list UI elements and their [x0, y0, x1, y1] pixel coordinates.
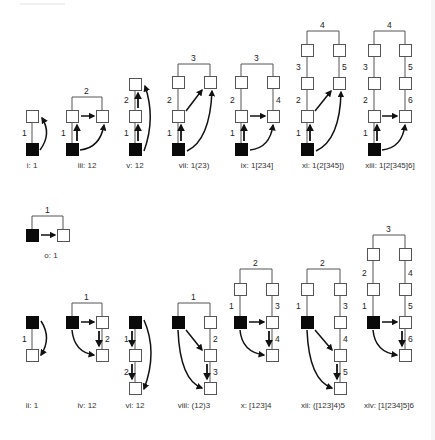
node-box: [205, 383, 217, 395]
node-box: [173, 77, 185, 89]
diagram-x: 2134x: [123]4: [229, 258, 280, 410]
node-box: [400, 317, 412, 329]
edge-number-label: 1: [22, 334, 27, 344]
diagram-caption: iii: 12: [78, 161, 97, 170]
node-box: [268, 111, 280, 123]
node-box: [334, 45, 346, 57]
arrow-icon: [250, 125, 273, 150]
node-box: [27, 111, 39, 123]
diagram-caption: ii: 1: [26, 401, 39, 410]
node-box: [130, 350, 142, 362]
node-box: [58, 230, 70, 242]
node-box: [205, 317, 217, 329]
edge-number-label: 2: [84, 86, 89, 96]
diagram-caption: xiii: 1[2[345]6]: [365, 161, 414, 170]
root-node-box: [67, 144, 79, 156]
diagram-xii: 21345xii: ([123]4)5: [296, 258, 348, 410]
node-box: [267, 350, 279, 362]
edge-number-label: 1: [296, 301, 301, 311]
edge-number-label: 3: [386, 224, 391, 234]
edge-number-label: 5: [343, 367, 348, 377]
diagram-caption: xi: 1(2[345]): [302, 161, 345, 170]
root-node-box: [130, 144, 142, 156]
edge-number-label: 1: [362, 301, 367, 311]
diagram-caption: iv: 12: [77, 401, 97, 410]
arrow-icon: [144, 320, 151, 389]
diagram-vi: 12vi: 12: [124, 317, 151, 411]
diagram-vii: 321vii: 1(23): [167, 53, 217, 170]
node-box: [130, 383, 142, 395]
edge-number-label: 2: [105, 334, 110, 344]
edge-number-label: 6: [408, 95, 413, 105]
edge-number-label: 2: [230, 95, 235, 105]
node-box: [97, 111, 109, 123]
diagram-iv: 12iv: 12: [67, 292, 111, 410]
arrow-icon: [144, 86, 150, 151]
node-box: [302, 284, 314, 296]
arrow-icon: [315, 91, 331, 111]
diagram-iii: 21iii: 12: [61, 86, 109, 170]
node-box: [205, 77, 217, 89]
arrow-icon: [41, 321, 47, 355]
node-box: [335, 383, 347, 395]
arrow-icon: [382, 125, 405, 150]
edge-number-label: 1: [229, 301, 234, 311]
node-box: [130, 111, 142, 123]
diagram-caption: vi: 12: [125, 401, 145, 410]
edge-number-label: 3: [191, 53, 196, 63]
edge-number-label: 3: [363, 62, 368, 72]
edge-number-label: 1: [84, 292, 89, 302]
arrow-icon: [187, 91, 212, 151]
node-box: [130, 79, 142, 91]
node-box: [205, 350, 217, 362]
edge-number-label: 4: [275, 334, 280, 344]
edge-number-label: 2: [124, 95, 129, 105]
arrow-icon: [307, 330, 332, 388]
root-node-box: [67, 317, 79, 329]
edge-number-label: 3: [213, 367, 218, 377]
node-box: [27, 350, 39, 362]
node-box: [236, 77, 248, 89]
node-box: [302, 111, 314, 123]
edge-number-label: 4: [408, 268, 413, 278]
diagram-ix: 3241ix: 1[234]: [230, 53, 281, 170]
edge-number-label: 2: [296, 95, 301, 105]
diagram-caption: ix: 1[234]: [241, 161, 273, 170]
arrow-icon: [373, 330, 397, 355]
edge-number-label: 1: [167, 128, 172, 138]
arrow-icon: [178, 330, 202, 388]
node-box: [368, 284, 380, 296]
diagram-caption: v: 12: [126, 161, 144, 170]
node-box: [97, 317, 109, 329]
edge-number-label: 1: [363, 128, 368, 138]
arrow-icon: [315, 330, 332, 350]
root-node-box: [236, 144, 248, 156]
diagram-caption: i: 1: [27, 161, 38, 170]
diagram-caption: o: 1: [44, 251, 58, 260]
diagram-caption: xiv: [1[234]5]6: [364, 401, 414, 410]
node-box: [334, 78, 346, 90]
node-box: [400, 284, 412, 296]
edge-number-label: 3: [275, 301, 280, 311]
edge-number-label: 4: [320, 20, 325, 30]
root-node-box: [368, 317, 380, 329]
arrow-icon: [316, 92, 341, 151]
diagram-caption: viii: (12)3: [178, 401, 211, 410]
edge-number-label: 2: [213, 334, 218, 344]
root-node-box: [27, 230, 39, 242]
edge-number-label: 5: [408, 301, 413, 311]
arrow-icon: [186, 90, 202, 111]
diagram-caption: xii: ([123]4)5: [301, 401, 346, 410]
diagram-o: 1o: 1: [27, 205, 70, 260]
edge-number-label: 5: [408, 62, 413, 72]
root-node-box: [302, 144, 314, 156]
edge-number-label: 3: [254, 53, 259, 63]
node-box: [268, 77, 280, 89]
edge-number-label: 1: [191, 292, 196, 302]
diagram-xi: 43521xi: 1(2[345]): [296, 20, 347, 170]
edge-number-label: 4: [387, 20, 392, 30]
root-node-box: [235, 317, 247, 329]
edge-number-label: 1: [124, 334, 129, 344]
node-box: [335, 284, 347, 296]
top-edge-artifact: [20, 3, 65, 5]
